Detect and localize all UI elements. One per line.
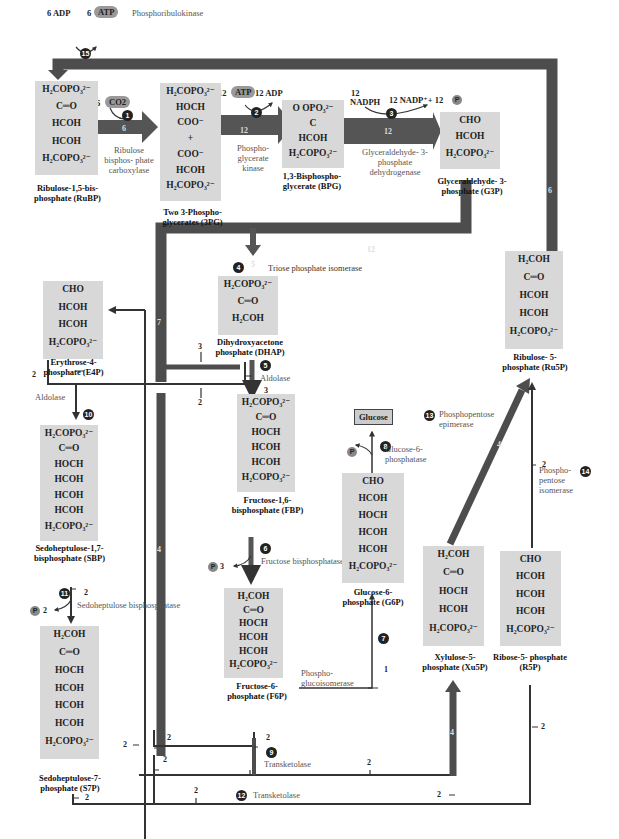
enzyme-phosphoribulokinase: Phosphoribulokinase <box>132 9 203 19</box>
formula-line: HOCH <box>40 460 98 470</box>
flux-tk-2a: 2 <box>167 733 171 742</box>
molecule-name-f6p: Fructose-6- phosphate (F6P) <box>222 681 292 701</box>
molecule-name-g6p: Glucose-6- phosphate (G6P) <box>338 587 408 607</box>
phosphate-fbp-icon: P <box>208 562 218 572</box>
adp-label: 6 ADP <box>47 8 70 18</box>
enzyme-epimerase: Phosphopentose epimerase <box>439 410 519 430</box>
formula-line: HCOH <box>505 291 563 301</box>
formula-line: COO⁻ <box>160 150 221 160</box>
molecule-name-e4p: Erythrose-4- phosphate (E4P) <box>36 357 111 377</box>
molecule-name-s7p: Sedoheptulose-7- phosphate (S7P) <box>30 773 110 793</box>
formula-line: HCOH <box>43 303 103 313</box>
formula-line: H₂COPO₃²⁻ <box>40 522 98 532</box>
flux-branch-2: 2 <box>198 398 202 407</box>
formula-line: H₂COPO₃²⁻ <box>35 85 98 95</box>
molecule-f6p: H₂COHC═OHOCHHCOHHCOHH₂COPO₃²⁻ <box>224 588 283 678</box>
phosphate-icon: P <box>452 95 462 105</box>
formula-line: HOCH <box>224 619 283 629</box>
formula-line: H₂COPO₃²⁻ <box>35 154 98 164</box>
molecule-fbp: H₂COPO₃²⁻C═OHOCHHCOHHCOHH₂COPO₃²⁻ <box>237 394 295 492</box>
step-3-icon: 3 <box>386 108 397 119</box>
flux-f6p-2: 2 <box>266 733 270 742</box>
formula-line: HCOH <box>342 494 404 504</box>
phosphate-g6p-icon: P <box>347 447 357 457</box>
formula-line: HCOH <box>237 443 295 453</box>
flux-xu5p-2: 2 <box>437 790 441 799</box>
formula-line: CHO <box>342 477 404 487</box>
formula-line: C═O <box>224 606 283 616</box>
formula-line: C═O <box>218 297 278 307</box>
formula-line: CHO <box>43 285 103 295</box>
formula-line: CHO <box>500 555 561 565</box>
formula-line: HCOH <box>500 590 561 600</box>
formula-line: C <box>282 119 344 129</box>
molecule-rubp: H₂COPO₃²⁻C═OHCOHHCOHH₂COPO₃²⁻ <box>35 81 98 175</box>
formula-line: HCOH <box>40 475 98 485</box>
flux-g3p-down: 12 <box>367 245 375 254</box>
molecule-3pg: H₂COPO₃²⁻HOCHCOO⁻+COO⁻HCOHH₂COPO₃²⁻ <box>160 83 221 201</box>
flux-tim: 5 <box>251 260 255 269</box>
enzyme-sbpase: Sedoheptulose bisphosphatase <box>77 601 180 611</box>
formula-line: H₂COPO₃²⁻ <box>342 562 404 572</box>
formula-line: HCOH <box>40 684 99 694</box>
step-13-icon: 13 <box>424 410 435 421</box>
flux-g6p-1: 1 <box>384 665 388 674</box>
formula-line: H₂COPO₃²⁻ <box>43 338 103 348</box>
molecule-g3p: CHOHCOHH₂COPO₃²⁻ <box>440 112 500 169</box>
flux-rubisco: 6 <box>122 124 126 133</box>
flux-left-2: 2 <box>123 740 127 749</box>
formula-line: HCOH <box>342 545 404 555</box>
molecule-sbp: H₂COPO₃²⁻C═OHOCHHCOHHCOHHCOHH₂COPO₃²⁻ <box>40 425 98 541</box>
step-12-icon: 12 <box>236 790 247 801</box>
co2-pill: CO2 <box>105 96 130 108</box>
formula-line: HOCH <box>160 103 221 113</box>
formula-line: H₂COPO₃²⁻ <box>440 149 500 159</box>
formula-line: H₂COPO₃²⁻ <box>282 149 344 159</box>
formula-line: H₂COPO₃²⁻ <box>237 473 295 483</box>
flux-tk9-2: 2 <box>367 758 371 767</box>
flux-s7p-2: 2 <box>85 793 89 802</box>
glucose-box: Glucose <box>354 409 393 425</box>
nadp-label: 12 NADP⁺+ 12 <box>389 95 443 105</box>
molecule-name-ru5p: Ribulose- 5-phosphate (Ru5P) <box>495 352 575 372</box>
flux-xu5p-4: 4 <box>450 728 454 737</box>
enzyme-gapdh: Glyceraldehyde- 3-phosphate dehydrogenas… <box>355 148 435 177</box>
formula-line: HOCH <box>237 428 295 438</box>
enzyme-tim: Triose phosphate isomerase <box>268 264 362 274</box>
enzyme-aldolase: Aldolase <box>260 374 290 384</box>
formula-line: H₂COPO₃²⁻ <box>160 87 221 97</box>
step-7-icon: 7 <box>378 633 389 644</box>
formula-line: COO⁻ <box>160 118 221 128</box>
molecule-s7p: H₂COHC═OHOCHHCOHHCOHHCOHH₂COPO₃²⁻ <box>40 626 99 759</box>
flux-to-aldolase: 7 <box>157 318 161 327</box>
step-15-icon: 15 <box>80 48 91 59</box>
enzyme-fbpase: Fructose bisphosphatase <box>261 557 344 567</box>
formula-line: HCOH <box>160 166 221 176</box>
formula-line: HCOH <box>40 719 99 729</box>
molecule-ru5p: H₂COHC═OHCOHHCOHH₂COPO₃²⁻ <box>505 251 563 349</box>
molecule-r5p: CHOHCOHHCOHHCOHH₂COPO₃²⁻ <box>500 551 561 646</box>
enzyme-rubisco: Ribulose bisphos- phate carboxylase <box>104 146 154 175</box>
molecule-name-bpg: 1,3-Bisphospho- glycerate (BPG) <box>272 171 352 191</box>
enzyme-transketolase-9: Transketolase <box>264 760 311 770</box>
adp12-label: 12 ADP <box>255 88 283 98</box>
step-6-icon: 6 <box>260 543 271 554</box>
enzyme-pgi: Phospho- glucoisomerase <box>301 669 371 689</box>
molecule-e4p: CHOHCOHHCOHH₂COPO₃²⁻ <box>43 281 103 359</box>
formula-line: + <box>160 134 221 144</box>
formula-line: HOCH <box>40 666 99 676</box>
enzyme-aldolase-10: Aldolase <box>35 393 65 403</box>
formula-line: C═O <box>35 102 98 112</box>
formula-line: HOCH <box>423 587 484 597</box>
phosphate-fbp-count: 3 <box>220 562 224 571</box>
formula-line: C═O <box>237 413 295 423</box>
formula-line: HCOH <box>40 491 98 501</box>
step-9-icon: 9 <box>266 747 277 758</box>
formula-line: HCOH <box>224 647 283 657</box>
formula-line: HCOH <box>40 701 99 711</box>
flux-ru5p-return: 6 <box>548 186 552 195</box>
molecule-name-fbp: Fructose-1,6- bisphosphate (FBP) <box>225 495 310 515</box>
enzyme-isomerase: Phospho- pentose isomerase <box>539 466 584 495</box>
flux-tk12-2: 2 <box>194 786 198 795</box>
enzyme-g6pase: Glucose-6- phosphatase <box>385 445 440 465</box>
